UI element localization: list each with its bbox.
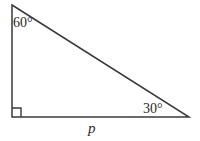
- right-angle-marker-icon: [12, 108, 21, 117]
- angle-label-base-right: 30°: [143, 102, 163, 116]
- geometry-figure: 60° 30° p: [0, 0, 200, 141]
- angle-label-apex: 60°: [13, 16, 33, 30]
- side-label-base: p: [88, 121, 96, 136]
